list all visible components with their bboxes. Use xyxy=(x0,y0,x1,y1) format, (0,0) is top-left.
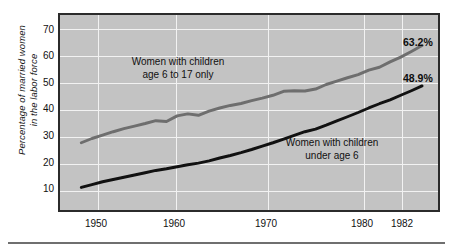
y-tick-50: 50 xyxy=(30,78,54,88)
end-label-63-2-percent: 63.2% xyxy=(403,36,433,48)
y-tick-20: 20 xyxy=(30,158,54,168)
annotation-women-children-under-6: Women with children under age 6 xyxy=(286,137,379,162)
series-lines xyxy=(60,15,438,210)
y-tick-40: 40 xyxy=(30,104,54,114)
y-tick-10: 10 xyxy=(30,184,54,194)
footer-rule xyxy=(8,242,445,244)
y-tick-30: 30 xyxy=(30,131,54,141)
x-tick-1950: 1950 xyxy=(85,218,107,229)
y-tick-70: 70 xyxy=(30,25,54,35)
x-tick-1970: 1970 xyxy=(255,218,277,229)
x-tick-1980: 1980 xyxy=(351,218,373,229)
chart-figure: Percentage of married women in the labor… xyxy=(0,0,453,250)
x-tick-1960: 1960 xyxy=(163,218,185,229)
y-tick-60: 60 xyxy=(30,51,54,61)
y-axis-tick-labels: 70 60 50 40 30 20 10 xyxy=(26,0,54,250)
end-label-48-9-percent: 48.9% xyxy=(403,72,433,84)
annotation-women-children-6-to-17: Women with children age 6 to 17 only xyxy=(132,56,225,81)
plot-area: Women with children age 6 to 17 only Wom… xyxy=(58,13,440,212)
x-tick-1982: 1982 xyxy=(391,218,413,229)
